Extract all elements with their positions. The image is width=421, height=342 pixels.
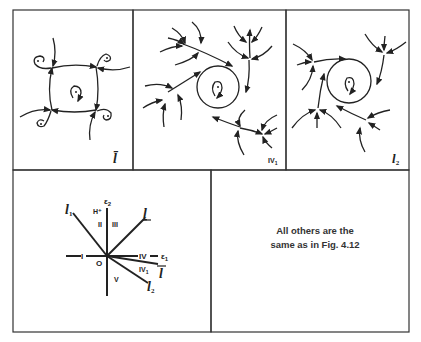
trajectory <box>96 67 98 110</box>
trajectory <box>252 27 262 42</box>
trajectory <box>52 65 96 68</box>
center-spiral <box>213 82 223 98</box>
center-spiral <box>71 86 81 101</box>
trajectory <box>365 34 382 52</box>
trajectory <box>160 46 182 52</box>
trajectory <box>368 110 390 118</box>
panel-label-iv1: IV1 <box>268 157 278 166</box>
trajectory <box>192 22 201 43</box>
trajectory <box>239 110 245 126</box>
trajectory <box>145 84 172 88</box>
trajectory <box>175 53 198 65</box>
curve-label-l1-sub: 1 <box>69 210 73 218</box>
region-label-ii: II <box>98 221 102 228</box>
trajectory <box>297 62 311 65</box>
axis-label-epsilon1: ε1 <box>161 252 169 262</box>
region-label-v: V <box>114 276 119 283</box>
region-label-iv1-sub: 1 <box>146 269 149 275</box>
region-label-h-plus: H⁺ <box>93 208 102 215</box>
trajectory <box>320 110 341 128</box>
trajectory <box>178 95 182 120</box>
trajectory <box>168 38 184 44</box>
phase-portrait-iv1 <box>143 22 277 155</box>
curve-label-lbar: l <box>159 266 163 281</box>
phase-portrait-l2 <box>292 34 406 152</box>
trajectory <box>183 44 232 66</box>
curve-label-l: l <box>143 206 147 221</box>
trajectory <box>228 42 248 58</box>
panel-frames <box>13 10 409 332</box>
panel-label-l2: l2 <box>392 151 400 167</box>
region-label-i: I <box>81 252 83 261</box>
phase-portrait-lbar <box>20 38 130 140</box>
trajectory <box>213 117 240 127</box>
panel-top-left-frame <box>13 10 133 170</box>
trajectory <box>163 104 165 127</box>
trajectory <box>318 74 324 108</box>
trajectory <box>53 38 55 66</box>
curve-l1 <box>73 213 107 256</box>
trajectory <box>369 123 380 130</box>
curve-label-l1: l1 <box>65 202 73 218</box>
panel-label-lbar: l̄ <box>113 151 119 166</box>
trajectory <box>265 128 277 134</box>
trajectory <box>384 36 385 50</box>
trajectory <box>250 30 251 58</box>
trajectory <box>337 106 366 120</box>
trajectory <box>292 110 315 128</box>
trajectory <box>252 46 272 59</box>
trajectory <box>263 137 272 148</box>
spiral <box>97 109 111 120</box>
curve-label-l2-sub: 2 <box>151 287 155 295</box>
trajectory <box>238 131 244 155</box>
trajectory <box>377 55 384 84</box>
trajectory <box>240 128 262 134</box>
trajectory <box>302 66 313 90</box>
note-line-2: same as in Fig. 4.12 <box>230 238 400 252</box>
spiral <box>34 56 51 69</box>
trajectory <box>98 67 130 70</box>
note-text: All others are the same as in Fig. 4.12 <box>230 224 400 252</box>
origin-label: O <box>96 259 102 268</box>
panel-label-iv1-sub: 1 <box>275 160 278 166</box>
trajectory <box>360 128 365 152</box>
trajectory <box>387 42 406 53</box>
axis-label-epsilon2: ε2 <box>104 197 112 207</box>
trajectory <box>293 44 312 60</box>
trajectory <box>50 68 53 110</box>
panel-label-l2-sub: 2 <box>396 159 400 167</box>
region-label-iv: IV <box>139 252 147 261</box>
center-spiral <box>345 78 354 94</box>
spiral <box>37 111 51 127</box>
region-label-iv1: IV1 <box>139 266 149 275</box>
trajectory <box>262 115 277 130</box>
trajectory <box>246 60 249 92</box>
trajectory <box>90 112 95 140</box>
trajectory <box>20 110 50 117</box>
axis-label-epsilon2-sub: 2 <box>108 201 112 207</box>
figure-canvas: l̄ IV1 <box>0 0 421 342</box>
trajectory <box>234 26 246 42</box>
region-label-iii: III <box>112 221 118 228</box>
trajectory <box>52 110 96 112</box>
note-line-1: All others are the <box>230 224 400 238</box>
panel-top-middle-frame <box>133 10 286 170</box>
spiral <box>97 54 111 66</box>
trajectory <box>168 72 200 92</box>
curve-label-l2: l2 <box>147 279 155 295</box>
trajectory <box>143 100 162 108</box>
axis-label-epsilon1-sub: 1 <box>165 256 169 262</box>
